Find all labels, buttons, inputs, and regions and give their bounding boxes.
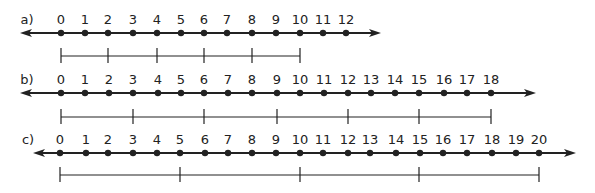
tick-label: 8 <box>248 72 256 87</box>
point-dot <box>178 30 184 36</box>
point-dot <box>345 150 351 156</box>
point-dot <box>224 30 230 36</box>
point-dot <box>297 150 303 156</box>
point-dot <box>393 150 399 156</box>
point-dot <box>130 90 136 96</box>
point-dot <box>440 150 446 156</box>
point-dot <box>273 150 279 156</box>
point-dot <box>178 90 184 96</box>
point-dot <box>343 30 349 36</box>
point-dot <box>345 90 351 96</box>
number-line-b: b)0123456789101112131415161718 <box>20 72 536 124</box>
point-dot <box>273 30 279 36</box>
tick-label: 13 <box>362 132 379 147</box>
tick-label: 6 <box>201 132 209 147</box>
point-dot <box>488 90 494 96</box>
point-dot <box>367 150 373 156</box>
point-dot <box>201 90 207 96</box>
point-dot <box>82 90 88 96</box>
point-dot <box>83 150 89 156</box>
tick-label: 5 <box>177 72 185 87</box>
point-dot <box>320 30 326 36</box>
point-dot <box>249 30 255 36</box>
point-dot <box>177 150 183 156</box>
tick-label: 5 <box>177 12 185 27</box>
point-dot <box>154 30 160 36</box>
point-dot <box>297 90 303 96</box>
point-dot <box>417 150 423 156</box>
tick-label: 2 <box>104 12 112 27</box>
point-dot <box>249 150 255 156</box>
tick-label: 3 <box>129 132 137 147</box>
tick-label: 9 <box>272 12 280 27</box>
point-dot <box>392 90 398 96</box>
point-dot <box>321 90 327 96</box>
point-dot <box>368 90 374 96</box>
number-line-label: b) <box>20 72 33 87</box>
point-dot <box>274 90 280 96</box>
tick-label: 6 <box>200 72 208 87</box>
point-dot <box>297 30 303 36</box>
number-line-c: c)01234567891011121314151617181920 <box>22 132 576 182</box>
tick-label: 10 <box>292 72 309 87</box>
tick-label: 16 <box>436 72 453 87</box>
point-dot <box>154 150 160 156</box>
tick-label: 10 <box>292 132 309 147</box>
point-dot <box>441 90 447 96</box>
tick-label: 9 <box>272 132 280 147</box>
point-dot <box>416 90 422 96</box>
tick-label: 0 <box>57 72 65 87</box>
point-dot <box>225 150 231 156</box>
tick-label: 9 <box>273 72 281 87</box>
tick-label: 3 <box>129 12 137 27</box>
tick-label: 2 <box>105 72 113 87</box>
tick-label: 1 <box>81 12 89 27</box>
point-dot <box>201 30 207 36</box>
point-dot <box>155 90 161 96</box>
point-dot <box>225 90 231 96</box>
number-line-label: c) <box>22 132 34 147</box>
point-dot <box>536 150 542 156</box>
tick-label: 13 <box>363 72 380 87</box>
tick-label: 11 <box>315 12 332 27</box>
tick-label: 16 <box>435 132 452 147</box>
tick-label: 6 <box>200 12 208 27</box>
number-line-label: a) <box>20 12 33 27</box>
tick-label: 11 <box>316 72 333 87</box>
tick-label: 15 <box>412 132 429 147</box>
point-dot <box>489 150 495 156</box>
point-dot <box>464 90 470 96</box>
tick-label: 7 <box>224 72 232 87</box>
tick-label: 4 <box>153 132 161 147</box>
number-line-a: a)0123456789101112 <box>20 12 381 63</box>
point-dot <box>57 150 63 156</box>
tick-label: 15 <box>411 72 428 87</box>
point-dot <box>82 30 88 36</box>
point-dot <box>105 150 111 156</box>
tick-label: 12 <box>340 72 357 87</box>
tick-label: 12 <box>340 132 357 147</box>
point-dot <box>464 150 470 156</box>
tick-label: 11 <box>315 132 332 147</box>
tick-label: 4 <box>153 12 161 27</box>
point-dot <box>130 150 136 156</box>
tick-label: 2 <box>104 132 112 147</box>
tick-label: 8 <box>248 132 256 147</box>
tick-label: 19 <box>508 132 525 147</box>
tick-label: 18 <box>484 132 501 147</box>
tick-label: 1 <box>81 72 89 87</box>
tick-label: 12 <box>338 12 355 27</box>
point-dot <box>106 90 112 96</box>
point-dot <box>320 150 326 156</box>
point-dot <box>105 30 111 36</box>
tick-label: 14 <box>387 72 404 87</box>
tick-label: 5 <box>176 132 184 147</box>
tick-label: 0 <box>56 132 64 147</box>
tick-label: 7 <box>223 12 231 27</box>
tick-label: 7 <box>224 132 232 147</box>
point-dot <box>202 150 208 156</box>
point-dot <box>58 90 64 96</box>
number-lines-diagram: a)0123456789101112b)01234567891011121314… <box>0 0 595 193</box>
point-dot <box>130 30 136 36</box>
tick-label: 14 <box>388 132 405 147</box>
